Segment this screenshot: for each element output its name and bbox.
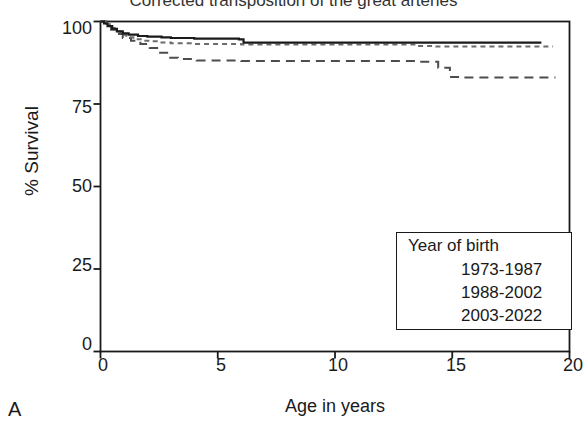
legend-row-2003-2022: 2003-2022 (406, 307, 570, 329)
series-line-1973-1987 (101, 22, 556, 78)
legend-label-2003-2022: 2003-2022 (461, 306, 542, 326)
legend-row-1988-2002: 1988-2002 (406, 284, 570, 306)
survival-chart-figure: Corrected transposition of the great art… (0, 0, 587, 432)
legend-label-1973-1987: 1973-1987 (461, 260, 542, 280)
legend-row-1973-1987: 1973-1987 (406, 261, 570, 283)
series-group (101, 22, 556, 78)
series-line-2003-2022 (101, 22, 542, 43)
plot-canvas (0, 0, 587, 432)
legend-label-1988-2002: 1988-2002 (461, 283, 542, 303)
legend-title: Year of birth (408, 236, 499, 256)
legend: Year of birth 1973-1987 1988-2002 2003-2… (396, 232, 572, 330)
